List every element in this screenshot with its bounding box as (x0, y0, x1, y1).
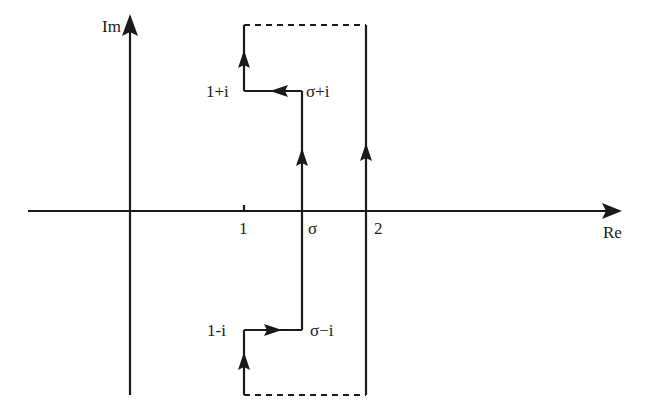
point-label-one-minus-i: 1-i (207, 322, 226, 339)
point-label-sigma-minus-i: σ−i (310, 322, 333, 339)
tick-label-one: 1 (239, 220, 248, 237)
tick-label-two: 2 (374, 220, 383, 237)
contour-diagram (0, 0, 646, 416)
imaginary-axis-label: Im (102, 18, 121, 35)
point-label-sigma-plus-i: σ+i (306, 83, 329, 100)
point-label-one-plus-i: 1+i (206, 83, 229, 100)
tick-label-sigma: σ (308, 220, 317, 237)
real-axis-label: Re (603, 224, 622, 241)
